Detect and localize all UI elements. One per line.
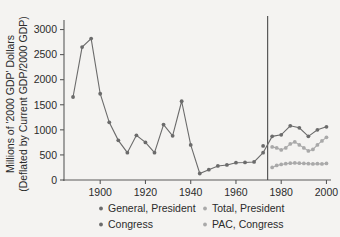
legend-marker-icon bbox=[203, 223, 207, 227]
legend-item: Total, President bbox=[203, 202, 284, 214]
y-axis-tick-label: 2500 bbox=[34, 48, 58, 60]
data-point bbox=[325, 135, 329, 139]
data-point bbox=[144, 140, 148, 144]
legend-label: Congress bbox=[108, 218, 153, 230]
data-point bbox=[216, 164, 220, 168]
y-axis-label-line2: (Deflated by Current GDP/2000 GDP) bbox=[17, 16, 29, 192]
data-point bbox=[189, 143, 193, 147]
y-axis-tick-label: 1500 bbox=[34, 99, 58, 111]
y-axis-tick-label: 1000 bbox=[34, 124, 58, 136]
y-axis-label-line1: Millions of '2000 GDP' Dollars bbox=[4, 35, 16, 173]
data-point bbox=[153, 151, 157, 155]
data-point bbox=[284, 146, 288, 150]
data-point bbox=[279, 163, 283, 167]
data-point bbox=[302, 146, 306, 150]
series-congress bbox=[261, 144, 265, 148]
data-point bbox=[288, 142, 292, 146]
legend-label: PAC, Congress bbox=[212, 218, 284, 230]
data-point bbox=[125, 151, 129, 155]
data-point bbox=[279, 148, 283, 152]
legend-marker-icon bbox=[99, 207, 103, 211]
data-point bbox=[270, 134, 274, 138]
data-point bbox=[275, 164, 279, 168]
campaign-spending-chart: Millions of '2000 GDP' Dollars (Deflated… bbox=[0, 0, 340, 237]
data-point bbox=[198, 172, 202, 176]
data-point bbox=[311, 162, 315, 166]
data-point bbox=[234, 161, 238, 165]
data-point bbox=[107, 120, 111, 124]
data-point bbox=[316, 143, 320, 147]
data-point bbox=[162, 123, 166, 127]
data-point bbox=[279, 133, 283, 137]
data-point bbox=[80, 45, 84, 49]
data-point bbox=[71, 95, 75, 99]
data-point bbox=[297, 143, 301, 147]
legend-label: General, President bbox=[108, 202, 196, 214]
x-axis-tick-label: 1900 bbox=[89, 186, 113, 198]
y-axis-tick-label: 500 bbox=[39, 149, 57, 161]
y-axis-label: Millions of '2000 GDP' Dollars (Deflated… bbox=[4, 16, 29, 192]
data-point bbox=[316, 162, 320, 166]
series-line bbox=[73, 39, 326, 174]
legend-marker-icon bbox=[99, 223, 103, 227]
data-point bbox=[270, 166, 274, 170]
data-point bbox=[89, 37, 93, 41]
data-point bbox=[261, 144, 265, 148]
data-point bbox=[297, 161, 301, 165]
chart-axes: 0500100015002000250030001900192019401960… bbox=[34, 20, 339, 198]
data-point bbox=[243, 161, 247, 165]
legend-item: PAC, Congress bbox=[203, 218, 283, 230]
y-axis-tick-label: 0 bbox=[51, 174, 57, 186]
data-point bbox=[306, 162, 310, 166]
y-axis-tick-label: 2000 bbox=[34, 73, 58, 85]
x-axis-tick-label: 1960 bbox=[224, 186, 248, 198]
data-point bbox=[293, 140, 297, 144]
chart-legend: General, PresidentTotal, PresidentCongre… bbox=[99, 202, 284, 230]
series-general-president bbox=[71, 37, 328, 176]
data-point bbox=[320, 139, 324, 143]
data-point bbox=[302, 162, 306, 166]
chart-figure: Millions of '2000 GDP' Dollars (Deflated… bbox=[0, 0, 340, 237]
data-point bbox=[207, 168, 211, 172]
legend-item: General, President bbox=[99, 202, 196, 214]
data-point bbox=[288, 124, 292, 128]
data-point bbox=[270, 145, 274, 149]
data-point bbox=[252, 160, 256, 164]
data-point bbox=[306, 149, 310, 153]
data-point bbox=[135, 133, 139, 137]
data-point bbox=[116, 138, 120, 142]
x-axis-tick-label: 1980 bbox=[270, 186, 294, 198]
data-point bbox=[293, 161, 297, 165]
data-point bbox=[171, 134, 175, 138]
data-point bbox=[225, 163, 229, 167]
data-point bbox=[288, 161, 292, 165]
chart-plot-area bbox=[71, 16, 328, 180]
x-axis-tick-label: 1940 bbox=[179, 186, 203, 198]
series-pac-congress bbox=[270, 161, 328, 169]
data-point bbox=[311, 148, 315, 152]
data-point bbox=[306, 134, 310, 138]
data-point bbox=[297, 126, 301, 130]
legend-item: Congress bbox=[99, 218, 153, 230]
data-point bbox=[320, 162, 324, 166]
data-point bbox=[325, 162, 329, 166]
data-point bbox=[275, 146, 279, 150]
x-axis-tick-label: 2000 bbox=[315, 186, 339, 198]
y-axis-tick-label: 3000 bbox=[34, 23, 58, 35]
data-point bbox=[261, 151, 265, 155]
series-total-president bbox=[270, 135, 328, 152]
data-point bbox=[180, 99, 184, 103]
data-point bbox=[325, 125, 329, 129]
x-axis-tick-label: 1920 bbox=[134, 186, 158, 198]
legend-label: Total, President bbox=[212, 202, 284, 214]
data-point bbox=[316, 128, 320, 132]
data-point bbox=[98, 92, 102, 96]
data-point bbox=[284, 162, 288, 166]
legend-marker-icon bbox=[203, 207, 207, 211]
